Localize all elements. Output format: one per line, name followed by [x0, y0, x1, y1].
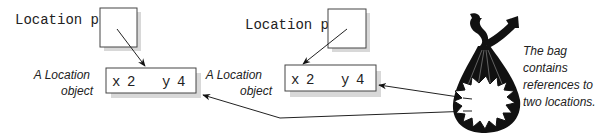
variable-p2-label: Location p2	[245, 17, 337, 33]
bag-caption-line4: two locations.	[523, 95, 596, 109]
bag-caption-line1: The bag	[523, 44, 567, 58]
object-2-y-label: y	[341, 72, 349, 88]
bag-caption-line2: contains	[523, 61, 568, 75]
object-1-x-value: 2	[127, 74, 135, 90]
bag-caption: The bag contains references to two locat…	[523, 44, 596, 109]
variable-p1: Location p1	[15, 8, 141, 51]
location-object-1: A Location object x 2 y 4	[33, 68, 201, 98]
object-1-caption-line2: object	[61, 84, 94, 98]
object-2-x-label: x	[291, 72, 299, 88]
location-object-2: A Location object x 2 y 4	[205, 65, 381, 98]
arrow-bag-to-object-1	[203, 95, 472, 118]
object-1-y-value: 4	[177, 74, 185, 90]
object-2-caption-line2: object	[240, 84, 273, 98]
object-2-y-value: 4	[356, 72, 364, 88]
object-2-x-value: 2	[306, 72, 314, 88]
bag-caption-line3: references to	[523, 78, 593, 92]
object-2-caption-line1: A Location	[205, 68, 263, 82]
diagram-canvas: Location p1 Location p2 A Location objec…	[0, 0, 597, 138]
variable-p1-box	[100, 8, 137, 47]
variable-p1-label: Location p1	[15, 12, 107, 28]
object-1-y-label: y	[162, 74, 170, 90]
diagram-svg: Location p1 Location p2 A Location objec…	[0, 0, 597, 138]
object-1-x-label: x	[112, 74, 120, 90]
variable-p2: Location p2	[245, 9, 370, 52]
bag-icon	[453, 13, 520, 133]
object-1-caption-line1: A Location	[33, 68, 91, 82]
variable-p2-box	[328, 9, 366, 48]
